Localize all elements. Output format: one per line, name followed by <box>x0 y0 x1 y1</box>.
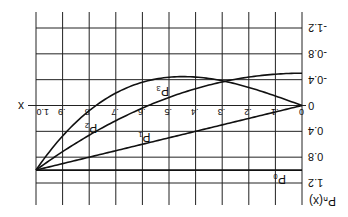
labels: -1.2-0.8-0.400.40.81.20.1.2.3.4.5.6.7.8.… <box>18 22 336 208</box>
x-tick-label: .7 <box>111 107 119 117</box>
legendre-chart: -1.2-0.8-0.400.40.81.20.1.2.3.4.5.6.7.8.… <box>0 0 348 217</box>
x-tick-label: .4 <box>191 107 199 117</box>
x-tick-label: .9 <box>58 107 66 117</box>
x-tick-label: 1.0 <box>36 107 49 117</box>
y-axis-title: Pₙ(x) <box>309 194 336 208</box>
y-tick-label: 0.8 <box>308 151 323 163</box>
chart-container: -1.2-0.8-0.400.40.81.20.1.2.3.4.5.6.7.8.… <box>0 0 348 217</box>
y-tick-label: -0.4 <box>308 74 327 86</box>
series-label-p2: P₂ <box>84 121 97 135</box>
y-tick-label: 1.2 <box>308 177 323 189</box>
y-tick-label: 0.4 <box>308 125 323 137</box>
y-tick-label: -1.2 <box>308 22 327 34</box>
x-tick-label: .1 <box>271 107 279 117</box>
series-label-p1: P₁ <box>138 130 150 144</box>
x-tick-label: .8 <box>85 107 93 117</box>
x-axis-title: x <box>18 99 24 113</box>
x-tick-label: 0 <box>299 107 304 117</box>
x-tick-label: .5 <box>164 107 172 117</box>
y-tick-label: -0.8 <box>308 48 327 60</box>
series-label-p3: P₃ <box>156 84 169 98</box>
x-tick-label: .6 <box>138 107 146 117</box>
x-tick-label: .2 <box>244 107 252 117</box>
x-tick-label: .3 <box>218 107 226 117</box>
series-label-p0: P₀ <box>273 172 286 186</box>
y-tick-label: 0 <box>308 100 314 112</box>
